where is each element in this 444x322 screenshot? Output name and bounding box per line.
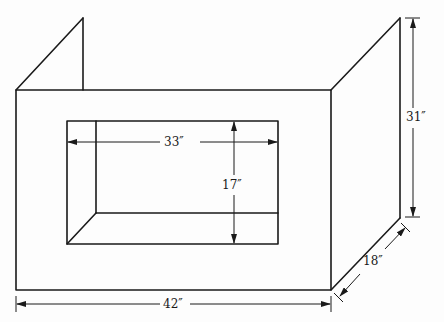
front-panel [16,90,331,290]
diagram-drawing [0,0,444,322]
right-side-panel [331,18,400,290]
left-side-panel [16,18,83,90]
label-opening-width: 33″ [162,135,186,149]
label-panel-height: 31″ [404,110,428,124]
display-board-diagram: 33″ 17″ 31″ 42″ 18″ [0,0,444,322]
label-total-width: 42″ [161,297,185,311]
label-opening-height: 17″ [220,178,244,192]
label-side-depth: 18″ [361,254,385,268]
